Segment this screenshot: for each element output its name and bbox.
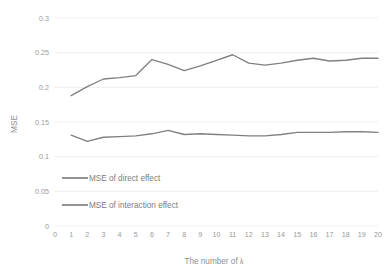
y-tick-label: 0.25 [35,48,49,57]
line-chart-canvas: 00.050.10.150.20.250.3 01234567891011121… [0,0,385,271]
y-tick-label: 0.15 [35,118,49,127]
x-tick-label: 9 [198,230,202,239]
x-tick-label: 7 [166,230,170,239]
x-tick-label: 17 [326,230,334,239]
x-tick-label: 6 [150,230,154,239]
y-tick-label: 0 [45,222,49,231]
legend-label-1: MSE of interaction effect [89,201,179,210]
x-tick-label: 2 [85,230,89,239]
chart-figure: 00.050.10.150.20.250.3 01234567891011121… [0,0,385,271]
legend-label-0: MSE of direct effect [89,174,161,183]
x-tick-label: 5 [134,230,138,239]
x-tick-label: 15 [293,230,301,239]
x-tick-label: 14 [277,230,285,239]
x-tick-label: 11 [229,230,236,239]
x-tick-label: 1 [69,230,73,239]
x-tick-label: 18 [342,230,350,239]
x-tick-label: 16 [309,230,317,239]
y-tick-label: 0.1 [39,152,49,161]
x-tick-label: 13 [261,230,269,239]
x-tick-label: 0 [53,230,57,239]
x-tick-label: 20 [374,230,382,239]
x-tick-label: 12 [245,230,253,239]
x-tick-label: 3 [101,230,105,239]
x-axis-tick-labels: 01234567891011121314151617181920 [53,230,382,239]
x-tick-label: 8 [182,230,186,239]
y-axis-title: MSE [10,115,19,133]
x-tick-label: 19 [358,230,366,239]
x-axis-title: The number of k [184,257,244,266]
y-tick-label: 0.05 [35,187,49,196]
x-tick-label: 10 [213,230,221,239]
x-tick-label: 4 [118,230,122,239]
y-tick-label: 0.3 [39,14,49,23]
y-tick-label: 0.2 [39,83,49,92]
